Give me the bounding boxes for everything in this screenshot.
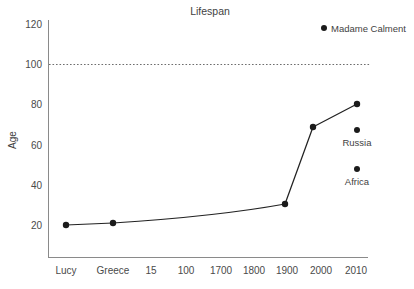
data-point-2000 — [310, 124, 316, 130]
annotation-label-russia: Russia — [342, 137, 372, 148]
x-tick-label-greece: Greece — [97, 265, 130, 276]
legend-marker-madame-calment — [321, 25, 327, 31]
chart-title: Lifespan — [190, 5, 230, 17]
x-tick-label-15: 15 — [145, 265, 157, 276]
data-point-lucy — [63, 222, 69, 228]
x-tick-label-2000: 2000 — [310, 265, 333, 276]
legend-label-madame-calment: Madame Calment — [331, 23, 406, 34]
y-axis-title: Age — [7, 131, 18, 149]
y-tick-label-60: 60 — [31, 140, 43, 151]
x-tick-label-1700: 1700 — [210, 265, 233, 276]
y-tick-label-100: 100 — [25, 59, 42, 70]
y-tick-label-80: 80 — [31, 99, 43, 110]
lifespan-chart: Lifespan Age 20 40 60 80 100 120 Lucy Gr… — [0, 0, 414, 289]
x-tick-label-100: 100 — [178, 265, 195, 276]
x-tick-label-lucy: Lucy — [55, 265, 76, 276]
y-tick-label-120: 120 — [25, 19, 42, 30]
x-tick-label-1800: 1800 — [243, 265, 266, 276]
annotation-label-africa: Africa — [345, 176, 370, 187]
data-point-africa — [354, 166, 360, 172]
data-point-2010 — [354, 101, 360, 107]
y-tick-label-40: 40 — [31, 180, 43, 191]
chart-canvas: Lifespan Age 20 40 60 80 100 120 Lucy Gr… — [0, 0, 414, 289]
lifespan-series-line — [66, 104, 357, 225]
y-tick-label-20: 20 — [31, 220, 43, 231]
x-tick-label-1900: 1900 — [276, 265, 299, 276]
x-tick-label-2010: 2010 — [345, 265, 368, 276]
data-point-russia — [354, 127, 360, 133]
data-point-1900 — [282, 201, 288, 207]
data-point-greece — [110, 220, 116, 226]
